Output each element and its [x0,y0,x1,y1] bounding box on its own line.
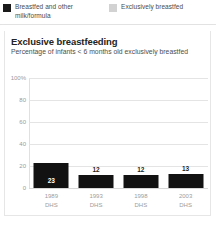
x-axis-tick-label: 1998DHS [119,192,164,210]
x-axis-source: DHS [119,201,164,210]
bar-slot: 23 [29,78,74,188]
legend-swatch-light-icon [109,4,117,12]
bar[interactable] [123,175,158,188]
legend-item-exclusively-breastfed[interactable]: Exclusively breastfed [109,3,213,12]
chart-title: Exclusive breastfeeding [11,36,117,47]
x-axis-year: 1989 [29,192,74,201]
gridline: 0 [29,188,208,189]
bar-slot: 12 [119,78,164,188]
bar-value-label: 23 [48,177,55,184]
bar-series: 23121213 [29,78,208,188]
x-axis-year: 1998 [119,192,164,201]
x-axis-labels: 1989DHS1993DHS1998DHS2003DHS [29,192,208,216]
legend-item-label: Breastfed and other milk/formula [15,3,103,20]
x-axis-source: DHS [163,201,208,210]
plot-canvas: 020406080100% 23121213 [29,78,208,188]
x-axis-source: DHS [74,201,119,210]
legend: Breastfed and other milk/formula Exclusi… [0,0,216,25]
legend-item-label: Exclusively breastfed [121,3,183,12]
x-axis-tick-label: 1989DHS [29,192,74,210]
bar-value-label: 12 [93,166,100,173]
y-axis-tick-label: 60 [19,119,26,125]
chart-card: Exclusive breastfeeding Percentage of in… [4,31,211,216]
bar[interactable] [79,175,114,188]
legend-swatch-dark-icon [3,4,11,12]
plot-area: 020406080100% 23121213 1989DHS1993DHS199… [5,72,212,216]
bar[interactable] [168,174,203,188]
bar-value-label: 12 [137,166,144,173]
x-axis-tick-label: 2003DHS [163,192,208,210]
bar-value-label: 13 [182,165,189,172]
y-axis-tick-label: 20 [19,163,26,169]
bar[interactable]: 23 [34,163,69,188]
bar-slot: 12 [74,78,119,188]
chart-subtitle: Percentage of infants < 6 months old exc… [11,48,207,57]
x-axis-tick-label: 1993DHS [74,192,119,210]
y-axis-tick-label: 0 [23,185,26,191]
bar-slot: 13 [163,78,208,188]
legend-item-breastfed-and-other[interactable]: Breastfed and other milk/formula [3,3,103,20]
x-axis-year: 1993 [74,192,119,201]
y-axis-tick-label: 100% [11,75,26,81]
y-axis-tick-label: 40 [19,141,26,147]
x-axis-source: DHS [29,201,74,210]
y-axis-tick-label: 80 [19,97,26,103]
x-axis-year: 2003 [163,192,208,201]
